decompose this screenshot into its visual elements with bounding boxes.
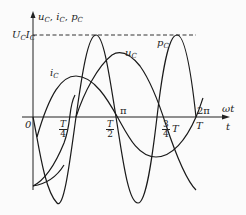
x-axis-arrow-icon xyxy=(222,115,230,120)
curve-label-u-c: uC xyxy=(125,48,137,60)
x-axis-label-omega-t: ωt xyxy=(222,104,234,114)
curve-u-c xyxy=(76,53,196,190)
x-axis-label-t: t xyxy=(226,122,230,132)
y-axis-arrow-icon xyxy=(31,11,36,18)
tick-t-half: T2 xyxy=(106,120,114,139)
capacitor-waveform-diagram: uC, iC, pC UCIC iC uC pC 0 T4 T2 π 34 T … xyxy=(0,0,246,215)
curve-p-c xyxy=(33,35,196,204)
curve-label-i-c: iC xyxy=(50,68,59,80)
origin-label: 0 xyxy=(25,120,31,130)
tick-three-quarter-suffix: T xyxy=(172,124,179,134)
tick-two-pi: 2π xyxy=(197,106,210,116)
tick-three-quarter: 34 xyxy=(162,120,170,139)
peak-label: UCIC xyxy=(12,30,35,42)
tick-period-t: T xyxy=(196,121,203,131)
tick-t-quarter: T4 xyxy=(59,120,67,139)
curve-label-p-c: pC xyxy=(157,38,169,50)
tick-pi: π xyxy=(120,106,127,116)
y-axis-label: uC, iC, pC xyxy=(38,12,83,24)
